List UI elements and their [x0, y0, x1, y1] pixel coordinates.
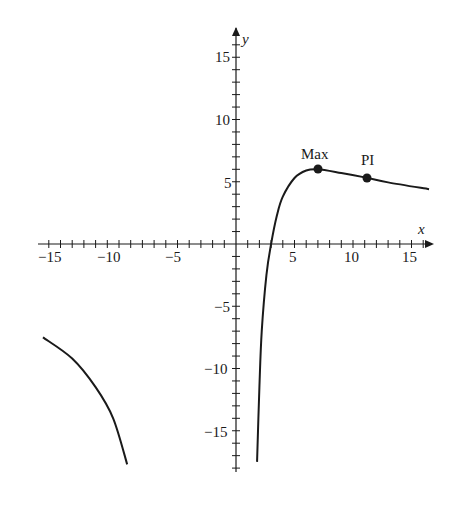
y-tick-label: −10	[204, 361, 227, 377]
x-tick-label: 10	[344, 249, 359, 265]
pi-point-marker	[363, 174, 372, 183]
chart-canvas: Max PI x y −15 −10 −5 5 10 15 15 10 5 −5…	[0, 0, 454, 509]
x-tick-label: −5	[165, 249, 181, 265]
y-tick-label: −5	[214, 299, 230, 315]
y-tick-label: 5	[224, 175, 232, 191]
pi-label: PI	[361, 152, 374, 168]
y-tick-label: −15	[204, 424, 227, 440]
x-axis-label: x	[417, 221, 425, 237]
y-axis-label: y	[240, 31, 249, 47]
y-tick-label: 10	[215, 112, 230, 128]
y-axis-arrow-icon	[232, 27, 240, 36]
x-axis-arrow-icon	[425, 240, 434, 248]
x-tick-label: −15	[38, 249, 61, 265]
right-branch-curve	[257, 169, 429, 462]
left-branch-curve	[43, 337, 127, 464]
max-label: Max	[301, 146, 329, 162]
x-tick-label: 5	[289, 249, 297, 265]
x-tick-label: 15	[402, 249, 417, 265]
max-point-marker	[314, 165, 323, 174]
y-tick-label: 15	[215, 49, 230, 65]
x-tick-label: −10	[97, 249, 120, 265]
